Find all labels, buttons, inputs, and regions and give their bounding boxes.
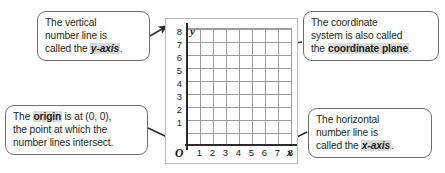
callout-origin: The origin is at (0, 0), the point at wh… [5, 105, 148, 155]
callout-origin-line1-suffix: is at (0, 0), [62, 111, 112, 122]
callout-x-axis-line2: number line is [316, 126, 425, 139]
callout-coordinate-plane: The coordinate system is also called the… [303, 11, 439, 61]
origin-label: O [175, 147, 183, 159]
x-tick-8: 8 [285, 147, 296, 158]
y-tick-8: 8 [174, 26, 185, 37]
x-tick-2: 2 [207, 147, 218, 158]
y-tick-7: 7 [174, 39, 185, 50]
y-tick-3: 3 [174, 91, 185, 102]
callout-plane-line3-suffix: . [409, 43, 412, 54]
y-axis-label: y [190, 25, 195, 37]
callout-origin-term: origin [33, 111, 62, 122]
x-tick-3: 3 [220, 147, 231, 158]
x-tick-5: 5 [246, 147, 257, 158]
grid-lines [187, 28, 292, 146]
callout-x-axis-term: x-axis [361, 140, 390, 151]
callout-y-axis-line3-suffix: . [120, 43, 123, 54]
y-tick-4: 4 [174, 78, 185, 89]
callout-origin-line3: number lines intersect. [13, 136, 141, 149]
callout-plane-line3: the coordinate plane. [311, 42, 432, 55]
callout-origin-line1: The origin is at (0, 0), [13, 110, 141, 123]
callout-y-axis-line2: number line is [45, 29, 143, 42]
y-tick-1: 1 [174, 117, 185, 128]
callout-y-axis-line3: called the y-axis. [45, 42, 143, 55]
callout-x-axis-line3: called the x-axis. [316, 139, 425, 152]
callout-origin-line1-prefix: The [13, 111, 33, 122]
y-tick-6: 6 [174, 52, 185, 63]
y-axis-line [186, 23, 188, 150]
callout-y-axis: The vertical number line is called the y… [37, 11, 150, 61]
x-tick-4: 4 [233, 147, 244, 158]
callout-origin-line2: the point at which the [13, 123, 141, 136]
callout-x-axis-line3-suffix: . [391, 140, 394, 151]
x-tick-7: 7 [272, 147, 283, 158]
callout-plane-line2: system is also called [311, 29, 432, 42]
callout-x-axis-line1: The horizontal [316, 113, 425, 126]
x-tick-1: 1 [194, 147, 205, 158]
coordinate-plane-graph: y x O 8 7 6 5 4 3 2 1 1 2 3 4 5 6 7 8 [165, 18, 298, 164]
callout-plane-term: coordinate plane [328, 43, 409, 54]
callout-y-axis-line1: The vertical [45, 16, 143, 29]
y-tick-5: 5 [174, 65, 185, 76]
callout-x-axis: The horizontal number line is called the… [308, 108, 432, 158]
callout-y-axis-term: y-axis [90, 43, 119, 54]
x-axis-line [185, 144, 297, 146]
callout-plane-line3-prefix: the [311, 43, 328, 54]
callout-y-axis-line3-prefix: called the [45, 43, 90, 54]
callout-x-axis-line3-prefix: called the [316, 140, 361, 151]
y-tick-2: 2 [174, 104, 185, 115]
callout-plane-line1: The coordinate [311, 16, 432, 29]
x-tick-6: 6 [259, 147, 270, 158]
